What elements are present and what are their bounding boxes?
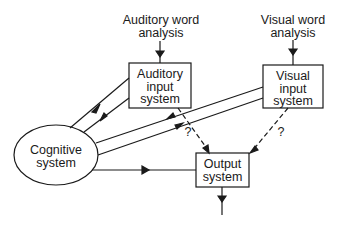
label-line: Visual (263, 70, 323, 83)
label-line: system (196, 171, 249, 184)
question-mark-visual: ? (275, 126, 287, 139)
label-line: system (129, 93, 191, 106)
visual-source-label: Visual word analysis (248, 14, 338, 39)
label-line: system (263, 95, 323, 108)
arrowhead-icon (100, 113, 107, 121)
auditory-source-label: Auditory word analysis (115, 14, 207, 39)
label-line: analysis (115, 27, 207, 40)
question-mark-auditory: ? (182, 126, 194, 139)
auditory-input-label: Auditory input system (129, 68, 191, 106)
arrowhead-icon (167, 113, 175, 119)
arrowhead-icon (142, 166, 149, 174)
arrowhead-icon (289, 49, 297, 55)
label-line: Auditory word (115, 14, 207, 27)
label-line: system (14, 157, 98, 170)
label-line: Cognitive (14, 144, 98, 157)
visual-input-label: Visual input system (263, 70, 323, 108)
arrowhead-icon (218, 196, 226, 202)
cognitive-label: Cognitive system (14, 144, 98, 169)
output-label: Output system (196, 158, 249, 183)
label-line: Auditory (129, 68, 191, 81)
arrowhead-icon (250, 146, 258, 153)
arrowhead-icon (156, 51, 164, 57)
label-line: Visual word (248, 14, 338, 27)
label-line: Output (196, 158, 249, 171)
arrowhead-icon (203, 145, 209, 153)
label-line: analysis (248, 27, 338, 40)
